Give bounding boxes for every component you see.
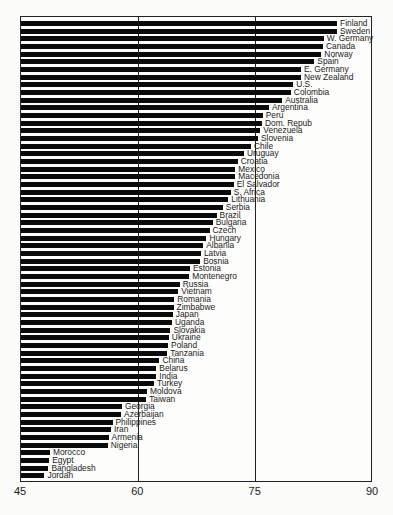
bar — [21, 351, 167, 356]
x-tick-label: 60 — [131, 485, 143, 497]
bar — [21, 251, 201, 256]
bar — [21, 243, 203, 248]
bar — [21, 105, 269, 110]
x-tick-label: 75 — [249, 485, 261, 497]
bar — [21, 182, 234, 187]
bar — [21, 174, 235, 179]
bar — [21, 366, 156, 371]
bar — [21, 282, 180, 287]
bar — [21, 75, 301, 80]
bar — [21, 274, 189, 279]
bar — [21, 29, 337, 34]
bar — [21, 458, 49, 463]
bar — [21, 90, 291, 95]
bar — [21, 144, 251, 149]
bar — [21, 381, 154, 386]
bar — [21, 44, 323, 49]
bar — [21, 335, 169, 340]
bar — [21, 297, 174, 302]
bar — [21, 128, 260, 133]
bar — [21, 473, 44, 478]
bar — [21, 21, 337, 26]
bar — [21, 113, 263, 118]
bar — [21, 98, 282, 103]
bar — [21, 450, 50, 455]
bar — [21, 389, 147, 394]
bar — [21, 228, 210, 233]
bar — [21, 205, 223, 210]
x-tick-label: 45 — [14, 485, 26, 497]
bar — [21, 328, 170, 333]
bar — [21, 466, 48, 471]
bar — [21, 412, 121, 417]
bar — [21, 312, 173, 317]
bar — [21, 236, 206, 241]
bar — [21, 358, 159, 363]
x-tick-label: 90 — [366, 485, 378, 497]
bar — [21, 404, 122, 409]
bar — [21, 259, 200, 264]
bar — [21, 289, 178, 294]
bar — [21, 121, 262, 126]
bar — [21, 266, 190, 271]
bar — [21, 59, 314, 64]
bar — [21, 159, 238, 164]
bar — [21, 167, 235, 172]
bar — [21, 136, 258, 141]
bar — [21, 220, 213, 225]
chart-plot-area: FinlandSwedenW. GermanyCanadaNorwaySpain… — [20, 16, 372, 482]
bar — [21, 420, 113, 425]
bar — [21, 151, 244, 156]
bar — [21, 190, 231, 195]
bar — [21, 343, 168, 348]
bar — [21, 82, 293, 87]
bar — [21, 374, 156, 379]
bar — [21, 427, 111, 432]
bar-label: Nigeria — [111, 440, 138, 450]
bar — [21, 36, 324, 41]
bar — [21, 52, 321, 57]
bar — [21, 197, 228, 202]
bar — [21, 213, 217, 218]
bar-label: Jordan — [47, 470, 73, 480]
bar — [21, 435, 109, 440]
bar — [21, 320, 172, 325]
bar — [21, 67, 301, 72]
bar — [21, 305, 174, 310]
